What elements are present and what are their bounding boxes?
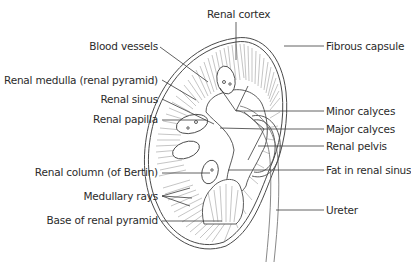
label-base-of-renal-pyramid: Base of renal pyramid [47,214,159,226]
label-renal-papilla: Renal papilla [93,113,158,125]
label-renal-column: Renal column (of Bertin) [35,166,158,178]
label-renal-medulla: Renal medulla (renal pyramid) [4,74,158,86]
label-renal-sinus: Renal sinus [100,93,158,105]
label-renal-cortex: Renal cortex [207,8,270,20]
label-fat-in-renal-sinus: Fat in renal sinus [326,164,411,176]
label-medullary-rays: Medullary rays [83,190,158,202]
label-fibrous-capsule: Fibrous capsule [326,40,404,52]
label-major-calyces: Major calyces [326,123,395,135]
label-ureter: Ureter [326,204,358,216]
label-blood-vessels: Blood vessels [89,40,158,52]
label-minor-calyces: Minor calyces [326,105,395,117]
label-renal-pelvis: Renal pelvis [326,140,387,152]
renal-sinus-structures [170,65,280,224]
